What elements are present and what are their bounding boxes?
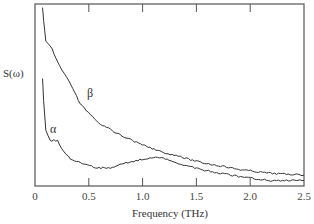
x-tick-label: 2.5: [297, 190, 311, 202]
x-tick-label: 2.0: [243, 190, 257, 202]
series-label-beta: β: [87, 86, 93, 100]
x-tick-label: 1.5: [190, 190, 204, 202]
series-line-alpha: [43, 79, 305, 182]
x-axis-tick-labels: 00.51.01.52.02.5: [32, 190, 311, 202]
series-line-beta: [43, 8, 305, 176]
data-series: [43, 8, 305, 182]
series-label-alpha: α: [50, 122, 57, 136]
spectral-density-chart: 00.51.01.52.02.5 S(ω) Frequency (THz) β …: [0, 0, 314, 224]
y-axis-label: S(ω): [3, 67, 24, 80]
x-tick-label: 1.0: [136, 190, 150, 202]
x-tick-label: 0.5: [82, 190, 96, 202]
x-tick-label: 0: [32, 190, 38, 202]
plot-frame: [35, 4, 304, 186]
x-axis-ticks: [89, 4, 250, 186]
x-axis-label: Frequency (THz): [132, 207, 208, 220]
